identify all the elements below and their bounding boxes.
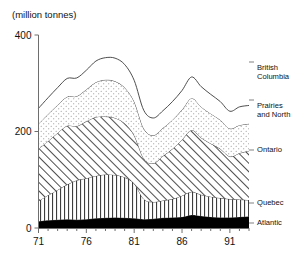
y-tick-label: 200: [15, 126, 32, 137]
legend-label: Ontario: [257, 145, 282, 154]
y-tick-label: 400: [15, 30, 32, 41]
legend-label-line2: Columbia: [257, 72, 290, 81]
x-tick-label: 91: [224, 236, 236, 247]
legend-label: Quebec: [257, 198, 284, 207]
x-tick-label: 86: [176, 236, 188, 247]
chart-unit-title: (million tonnes): [12, 9, 76, 20]
stacked-area-chart: (million tonnes) 4002000 7176818691 Brit…: [0, 0, 303, 258]
y-tick-label: 0: [26, 223, 32, 234]
x-tick-label: 76: [81, 236, 93, 247]
legend-label: British: [257, 63, 278, 72]
x-tick-label: 81: [129, 236, 141, 247]
legend-label: Atlantic: [257, 218, 282, 227]
chart-canvas: (million tonnes) 4002000 7176818691 Brit…: [0, 0, 303, 258]
x-tick-label: 71: [33, 236, 45, 247]
legend-label: Prairies: [257, 101, 283, 110]
legend-label-line2: and North: [257, 110, 290, 119]
